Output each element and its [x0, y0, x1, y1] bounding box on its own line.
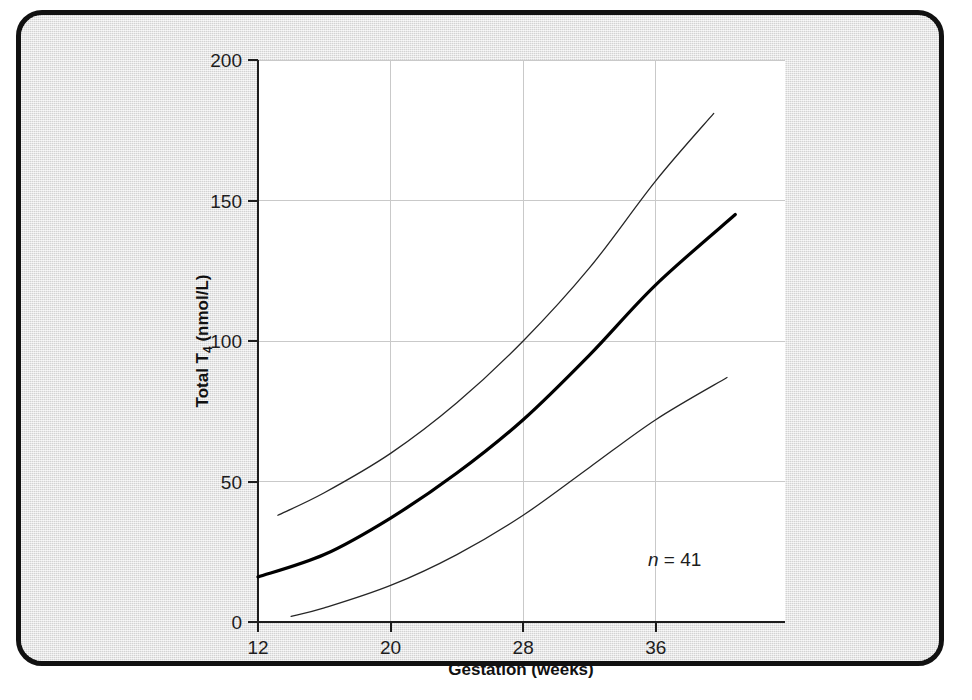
chart-canvas: 050100150200 12202836 n = 41 Gestation (…: [0, 0, 972, 700]
sample-size-annotation: n = 41: [648, 549, 701, 570]
y-axis-ticks: [248, 60, 258, 622]
x-axis-tick-labels: 12202836: [247, 637, 666, 658]
x-axis-ticks: [258, 622, 656, 632]
sample-size-value: = 41: [659, 549, 702, 570]
tick-label-y-50: 50: [221, 472, 242, 493]
figure-root: 050100150200 12202836 n = 41 Gestation (…: [0, 0, 972, 700]
tick-label-y-100: 100: [210, 331, 242, 352]
y-axis-tick-labels: 050100150200: [210, 50, 242, 633]
tick-label-x-36: 36: [645, 637, 666, 658]
y-axis-title-units: (nmol/L): [193, 275, 212, 347]
y-axis-title-main: Total T: [193, 352, 212, 407]
y-axis-title: Total T4 (nmol/L): [193, 275, 215, 408]
tick-label-y-200: 200: [210, 50, 242, 71]
tick-label-x-12: 12: [247, 637, 268, 658]
tick-label-x-28: 28: [513, 637, 534, 658]
tick-label-y-0: 0: [231, 612, 242, 633]
tick-label-y-150: 150: [210, 191, 242, 212]
x-axis-title: Gestation (weeks): [448, 660, 594, 679]
tick-label-x-20: 20: [380, 637, 401, 658]
sample-size-symbol: n: [648, 549, 659, 570]
